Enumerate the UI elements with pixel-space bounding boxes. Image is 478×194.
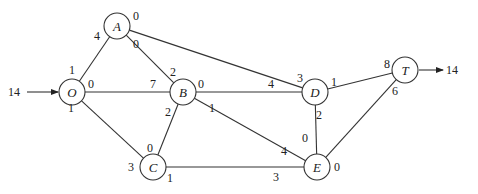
node-label: B: [179, 85, 187, 100]
edge-capacity-label-e-t-at-e: 0: [334, 160, 340, 174]
edge-capacity-label-e-t-at-t: 6: [392, 84, 398, 98]
node-label: T: [401, 63, 409, 78]
node-c: C: [140, 154, 166, 180]
edge-capacity-label-o-b-at-b: 7: [150, 77, 156, 91]
edge-capacity-label-o-a-at-a: 4: [94, 29, 100, 43]
edge-capacity-label-d-e-at-d: 2: [316, 108, 322, 122]
edge-capacity-label-c-e-at-c: 1: [167, 171, 173, 185]
edge-d-t: [328, 73, 393, 89]
edge-capacity-label-o-b-at-o: 0: [88, 77, 94, 91]
node-b: B: [170, 79, 196, 105]
edge-capacity-label-b-c-at-c: 0: [147, 141, 153, 155]
edge-capacity-label-b-e-at-b: 1: [209, 101, 215, 115]
edge-capacity-label-o-a-at-o: 1: [69, 63, 75, 77]
edge-capacity-label-o-c-at-o: 1: [68, 101, 74, 115]
edge-capacity-label-a-d-at-a: 0: [133, 9, 139, 23]
edge-capacity-label-b-d-at-d: 4: [268, 77, 274, 91]
sink-flow-value: 14: [446, 63, 458, 77]
node-t: T: [392, 57, 418, 83]
network-flow-diagram: 1414 OABCDET 410302070413201413201860: [0, 0, 478, 194]
node-label: C: [149, 160, 158, 175]
edge-capacity-label-b-c-at-b: 2: [165, 105, 171, 119]
edge-capacity-label-a-b-at-a: 0: [133, 37, 139, 51]
edge-capacity-label-b-d-at-b: 0: [198, 77, 204, 91]
edge-capacity-label-b-e-at-e: 4: [281, 144, 287, 158]
edge-capacity-label-o-c-at-c: 3: [128, 160, 134, 174]
edge-capacity-label-a-d-at-d: 3: [297, 71, 303, 85]
edge-capacity-label-d-t-at-t: 8: [384, 57, 390, 71]
node-d: D: [302, 79, 328, 105]
edges-layer: [79, 30, 396, 167]
edge-o-c: [82, 101, 144, 158]
edge-capacity-label-c-e-at-e: 3: [273, 170, 279, 184]
edge-e-t: [326, 80, 397, 158]
node-label: A: [112, 19, 121, 34]
edge-capacity-label-d-e-at-e: 0: [302, 131, 308, 145]
node-e: E: [304, 154, 330, 180]
edge-capacity-label-d-t-at-d: 1: [331, 75, 337, 89]
node-a: A: [104, 13, 130, 39]
edge-capacity-label-a-b-at-b: 2: [170, 65, 176, 79]
edge-o-a: [79, 37, 109, 82]
nodes-layer: OABCDET: [59, 13, 418, 180]
source-flow-value: 14: [8, 85, 20, 99]
node-label: E: [312, 160, 321, 175]
node-label: D: [309, 85, 320, 100]
node-label: O: [67, 85, 77, 100]
